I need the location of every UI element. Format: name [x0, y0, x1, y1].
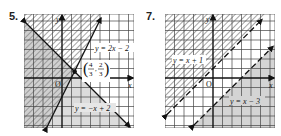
- svg-text:,: ,: [95, 65, 97, 73]
- svg-text:(: (: [83, 60, 88, 78]
- graph-5-origin-label: O: [55, 80, 61, 89]
- graph-7-x-label: x: [268, 81, 273, 90]
- svg-text:3: 3: [89, 70, 93, 78]
- graph-7-y-label: y: [205, 15, 210, 24]
- svg-text:2: 2: [99, 61, 103, 69]
- problem-7-number: 7.: [146, 10, 155, 22]
- svg-text:3: 3: [99, 70, 103, 78]
- graph-7-origin-label: O: [206, 80, 212, 89]
- intersection-point: [72, 69, 77, 74]
- graph-5-x-label: x: [127, 81, 132, 90]
- svg-text:): ): [104, 60, 109, 78]
- line-label-neg-x-plus-2: y = −x + 2: [74, 104, 110, 113]
- graph-5: y x O y = 2x − 2 y = −x + 2 ( 4 3 , 2 3 …: [0, 0, 281, 136]
- graph-5-y-label: y: [55, 15, 60, 24]
- intersection-label: ( 4 3 , 2 3 ): [82, 60, 110, 82]
- line-label-x-plus-1: y = x + 1: [172, 56, 203, 65]
- svg-text:4: 4: [89, 61, 93, 69]
- line-label-2x-minus-2: y = 2x − 2: [94, 44, 129, 53]
- graph-7-plot: [165, 14, 275, 128]
- line-label-x-minus-3: y = x − 3: [229, 97, 260, 106]
